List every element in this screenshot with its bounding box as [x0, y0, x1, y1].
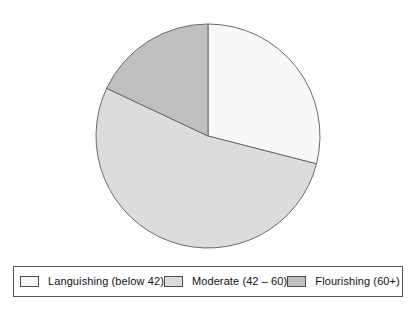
legend-item-moderate[interactable]: Moderate (42 – 60) — [164, 275, 287, 288]
pie-slice-group — [96, 24, 320, 248]
legend-swatch-languishing — [20, 276, 39, 287]
legend-label-flourishing: Flourishing (60+) — [315, 275, 400, 288]
legend-label-languishing: Languishing (below 42) — [48, 275, 164, 288]
legend-swatch-flourishing — [287, 276, 306, 287]
legend-swatch-moderate — [164, 276, 183, 287]
pie-svg — [0, 0, 418, 258]
legend-item-languishing[interactable]: Languishing (below 42) — [20, 275, 164, 288]
pie-plot-area — [0, 0, 418, 258]
chart-legend: Languishing (below 42) Moderate (42 – 60… — [13, 266, 403, 297]
pie-chart-figure: Languishing (below 42) Moderate (42 – 60… — [0, 0, 418, 311]
legend-label-moderate: Moderate (42 – 60) — [192, 275, 287, 288]
legend-item-flourishing[interactable]: Flourishing (60+) — [287, 275, 400, 288]
